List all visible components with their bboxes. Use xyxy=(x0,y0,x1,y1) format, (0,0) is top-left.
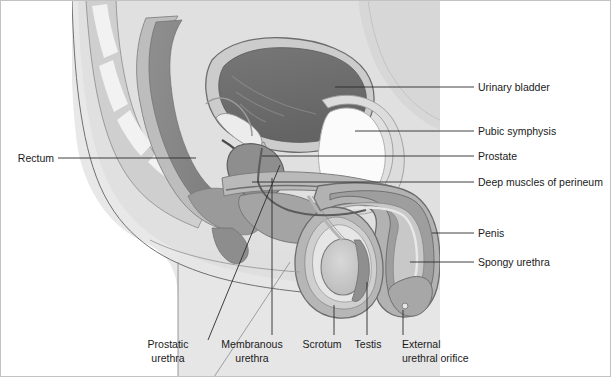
label-penis: Penis xyxy=(478,227,504,239)
label-external-urethral-orifice-line1: External xyxy=(402,338,441,350)
label-deep-muscles-perineum: Deep muscles of perineum xyxy=(478,176,603,188)
figure-page: Urinary bladder Pubic symphysis Prostate… xyxy=(0,0,611,377)
label-urinary-bladder: Urinary bladder xyxy=(478,81,550,93)
anatomical-diagram: Urinary bladder Pubic symphysis Prostate… xyxy=(0,0,611,377)
external-orifice xyxy=(402,303,408,309)
label-scrotum: Scrotum xyxy=(302,338,341,350)
label-external-urethral-orifice-line2: urethral orifice xyxy=(402,352,469,364)
label-prostatic-urethra-line2: urethra xyxy=(151,352,184,364)
label-membranous-urethra-line1: Membranous xyxy=(221,338,282,350)
label-rectum: Rectum xyxy=(18,152,54,164)
label-spongy-urethra: Spongy urethra xyxy=(478,256,550,268)
label-prostate: Prostate xyxy=(478,150,517,162)
label-pubic-symphysis: Pubic symphysis xyxy=(478,125,556,137)
label-testis: Testis xyxy=(355,338,382,350)
label-prostatic-urethra-line1: Prostatic xyxy=(148,338,189,350)
label-membranous-urethra-line2: urethra xyxy=(235,352,268,364)
